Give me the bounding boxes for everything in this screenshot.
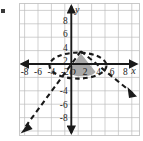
y-tick-label: -4 [60,86,68,96]
coordinate-plane-svg: -8 -6 -4 -2 O 2 4 6 8 8 6 4 2 -4 -6 -8 x… [0,0,143,141]
y-axis-label: y [74,4,80,15]
y-tick-label: 4 [63,43,68,53]
origin-label: O [69,67,76,77]
x-tick-label: 8 [123,67,128,77]
graph-figure: -8 -6 -4 -2 O 2 4 6 8 8 6 4 2 -4 -6 -8 x… [0,0,143,141]
y-tick-label: -6 [60,100,68,110]
margin-bullet-marker [1,9,5,13]
y-tick-label: 2 [63,56,68,66]
x-tick-label: 6 [110,67,115,77]
y-tick-label: -8 [60,113,68,123]
x-tick-label: -2 [61,67,69,77]
x-tick-label: 2 [83,67,88,77]
y-tick-label: 8 [63,16,68,26]
y-tick-label: 6 [63,29,68,39]
x-tick-label: 4 [96,67,101,77]
x-tick-label: -8 [21,67,29,77]
x-axis-label: x [130,65,136,76]
x-tick-label: -4 [47,67,55,77]
x-tick-label: -6 [34,67,42,77]
